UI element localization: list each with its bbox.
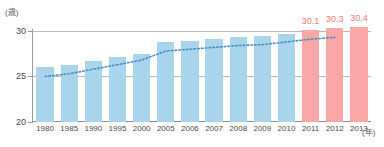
data-label-2011: 30.1 <box>299 16 323 26</box>
x-tick-label-2010: 2010 <box>274 124 298 134</box>
bar-2000 <box>133 54 150 122</box>
bar-1985 <box>61 65 78 122</box>
bar-2008 <box>230 37 247 122</box>
plot-area <box>33 31 371 122</box>
x-tick-label-1980: 1980 <box>33 124 57 134</box>
data-label-2012: 30.3 <box>323 14 347 24</box>
y-axis-unit-label: (歳) <box>5 6 18 17</box>
bar-2009 <box>254 36 271 122</box>
x-tick-label-2000: 2000 <box>130 124 154 134</box>
x-axis-labels: 1980198519901995200020052006200720082009… <box>33 124 371 138</box>
x-tick-label-2006: 2006 <box>178 124 202 134</box>
data-label-2013: 30.4 <box>347 13 371 23</box>
y-tick-label-30: 30 <box>4 27 26 36</box>
bar-2007 <box>205 39 222 122</box>
bar-2005 <box>157 42 174 122</box>
bar-2006 <box>181 41 198 122</box>
chart-container: (歳) 30 25 20 30.130.330.4 19801985199019… <box>0 0 384 147</box>
x-tick-label-2012: 2012 <box>323 124 347 134</box>
x-tick-label-1985: 1985 <box>57 124 81 134</box>
x-tick-label-2007: 2007 <box>202 124 226 134</box>
x-tick-label-2005: 2005 <box>154 124 178 134</box>
x-tick-label-1995: 1995 <box>105 124 129 134</box>
y-tick-label-20: 20 <box>4 118 26 127</box>
bar-2010 <box>278 34 295 122</box>
bar-2012 <box>326 28 343 122</box>
y-tick-mark-20 <box>28 122 33 123</box>
x-tick-label-2008: 2008 <box>226 124 250 134</box>
x-tick-label-2009: 2009 <box>250 124 274 134</box>
y-tick-label-25: 25 <box>4 72 26 81</box>
bar-1990 <box>85 61 102 122</box>
x-tick-label-2011: 2011 <box>299 124 323 134</box>
bars-layer <box>33 31 371 122</box>
bar-2013 <box>350 27 367 122</box>
bar-1980 <box>36 67 53 123</box>
bar-2011 <box>302 30 319 122</box>
x-axis-unit-label: (年) <box>362 126 375 137</box>
x-tick-label-1990: 1990 <box>81 124 105 134</box>
bar-1995 <box>109 57 126 122</box>
